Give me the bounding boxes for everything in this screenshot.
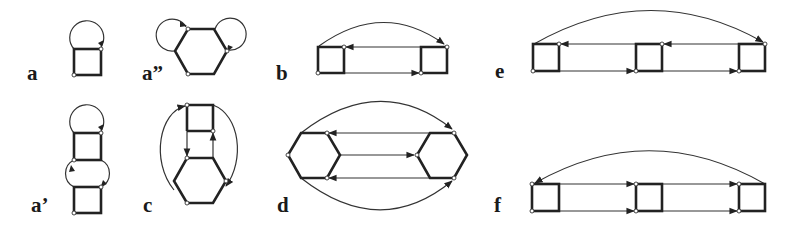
panel-a-prime: a’: [31, 105, 109, 217]
vertex: [415, 153, 419, 157]
vertex: [225, 49, 229, 53]
vertex: [452, 131, 456, 135]
vertex: [72, 211, 76, 215]
vertex: [737, 209, 741, 213]
square: [739, 184, 765, 211]
loop-arc-right: [215, 18, 246, 50]
vertex: [224, 179, 228, 183]
square: [532, 184, 559, 211]
panel-a-double-prime: a”: [142, 18, 246, 85]
panel-e: e: [495, 10, 767, 83]
arrowhead-icon: [69, 165, 75, 172]
arc-top: [301, 101, 452, 133]
arrowhead-icon: [180, 21, 187, 27]
arc: [534, 10, 763, 44]
vertex: [99, 185, 103, 189]
arc-left: [160, 106, 185, 190]
square-bottom: [74, 187, 101, 213]
panel-label-b: b: [276, 61, 288, 85]
vertex: [445, 45, 449, 49]
vertex: [186, 72, 190, 76]
panel-label-a-prime: a’: [31, 193, 49, 217]
square: [636, 184, 662, 211]
vertex: [557, 42, 561, 46]
square-right: [421, 47, 447, 73]
square: [74, 49, 101, 75]
arc: [535, 151, 765, 184]
vertex: [325, 131, 329, 135]
vertex: [763, 42, 767, 46]
square-left: [318, 47, 344, 73]
loop-arc: [70, 21, 104, 49]
loop-arc-top: [70, 105, 104, 133]
square-top: [74, 133, 101, 160]
panel-f: f: [494, 151, 765, 217]
vertex: [634, 182, 638, 186]
panel-b: b: [276, 22, 449, 85]
arc-right: [213, 105, 237, 186]
panel-c: c: [143, 103, 237, 217]
vertex: [316, 71, 320, 75]
vertex: [99, 131, 103, 135]
vertex: [452, 176, 456, 180]
hexagon-left: [288, 133, 340, 178]
vertex: [286, 153, 290, 157]
hexagon: [174, 158, 226, 203]
vertex: [185, 103, 189, 107]
vertex: [737, 69, 741, 73]
vertex: [342, 45, 346, 49]
vertex: [737, 182, 741, 186]
square: [187, 105, 213, 131]
vertex: [72, 73, 76, 77]
vertex: [99, 47, 103, 51]
panel-d: d: [277, 101, 467, 217]
panel-label-f: f: [494, 193, 502, 217]
panel-label-e: e: [495, 59, 504, 83]
square: [636, 44, 662, 71]
square: [739, 44, 765, 71]
panel-label-a: a: [27, 61, 38, 85]
vertex: [186, 27, 190, 31]
loop-arc-left: [66, 160, 74, 187]
hexagon: [175, 29, 227, 74]
vertex: [660, 42, 664, 46]
panel-label-d: d: [277, 193, 289, 217]
vertex: [530, 209, 534, 213]
vertex: [185, 156, 189, 160]
vertex: [634, 209, 638, 213]
panel-a: a: [27, 21, 104, 85]
panel-label-a-double-prime: a”: [142, 61, 163, 85]
vertex: [211, 129, 215, 133]
vertex: [634, 69, 638, 73]
square: [533, 44, 559, 71]
vertex: [419, 71, 423, 75]
vertex: [185, 201, 189, 205]
vertex: [531, 69, 535, 73]
arc: [319, 22, 444, 46]
hexagon-right: [417, 133, 467, 178]
graph-figure: a a” b e: [0, 0, 795, 230]
panel-label-c: c: [143, 193, 152, 217]
vertex: [72, 158, 76, 162]
arc-bottom: [301, 178, 452, 210]
vertex: [325, 176, 329, 180]
vertex: [530, 182, 534, 186]
